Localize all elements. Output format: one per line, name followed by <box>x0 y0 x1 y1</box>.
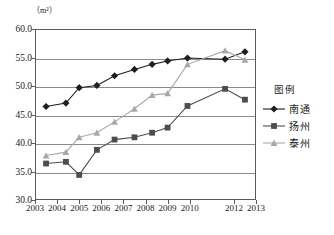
data-point-marker <box>165 125 171 131</box>
data-point-marker <box>111 72 118 79</box>
data-point-marker <box>241 48 248 55</box>
legend-label: 南通 <box>289 101 311 116</box>
series-line <box>46 89 245 175</box>
legend-label: 扬州 <box>289 118 311 133</box>
data-point-marker <box>63 159 69 165</box>
y-tick-label: 40.0 <box>15 138 32 148</box>
data-point-marker <box>242 97 248 103</box>
y-axis-tick <box>31 143 35 144</box>
data-point-marker <box>112 137 118 143</box>
y-tick-label: 55.0 <box>15 53 32 63</box>
x-tick-label: 2006 <box>92 203 110 213</box>
data-point-marker <box>93 129 100 135</box>
y-axis-tick-labels: 60.055.050.045.040.035.030.0 <box>0 0 35 235</box>
data-point-marker <box>184 61 191 67</box>
data-point-marker <box>132 134 138 140</box>
data-point-marker <box>131 66 138 73</box>
y-axis-tick <box>31 172 35 173</box>
x-tick-label: 2007 <box>114 203 132 213</box>
y-axis-unit-label: （m²） <box>32 4 57 15</box>
data-point-marker <box>43 161 49 167</box>
x-axis-tick-labels: 2003200420052006200720082009201020122013 <box>0 203 334 219</box>
data-point-marker <box>93 82 100 89</box>
x-tick-label: 2010 <box>181 203 199 213</box>
y-axis-tick <box>31 86 35 87</box>
series-triangle <box>43 47 249 158</box>
x-tick-label: 2008 <box>137 203 155 213</box>
x-tick-label: 2009 <box>159 203 177 213</box>
x-tick-label: 2012 <box>225 203 243 213</box>
legend-title: 图例 <box>274 82 334 96</box>
data-point-marker <box>184 54 191 61</box>
data-point-marker <box>185 103 191 109</box>
legend-swatch-icon <box>262 120 286 132</box>
y-axis-tick <box>31 29 35 30</box>
data-point-marker <box>270 105 277 112</box>
data-point-marker <box>222 86 228 92</box>
legend-item-triangle[interactable]: 泰州 <box>262 134 334 151</box>
data-point-marker <box>149 61 156 68</box>
data-point-marker <box>271 123 277 129</box>
series-line <box>46 52 245 107</box>
y-axis-tick <box>31 115 35 116</box>
data-point-marker <box>111 119 118 125</box>
chart-root: （m²） 60.055.050.045.040.035.030.0 200320… <box>0 0 334 235</box>
legend-item-diamond[interactable]: 南通 <box>262 100 334 117</box>
data-point-marker <box>222 47 229 53</box>
legend-swatch-icon <box>262 103 286 115</box>
data-point-marker <box>94 147 100 153</box>
legend-label: 泰州 <box>289 135 311 150</box>
y-axis-tick <box>31 58 35 59</box>
legend: 图例 南通扬州泰州 <box>262 82 334 151</box>
x-tick-label: 2013 <box>247 203 265 213</box>
data-point-marker <box>76 172 82 178</box>
data-point-marker <box>42 103 49 110</box>
y-tick-label: 60.0 <box>15 24 32 34</box>
x-tick-label: 2004 <box>48 203 66 213</box>
legend-swatch-icon <box>262 137 286 149</box>
x-tick-label: 2005 <box>70 203 88 213</box>
y-tick-label: 50.0 <box>15 81 32 91</box>
legend-entries: 南通扬州泰州 <box>262 100 334 151</box>
data-point-marker <box>149 130 155 136</box>
y-tick-label: 35.0 <box>15 167 32 177</box>
y-tick-label: 45.0 <box>15 110 32 120</box>
data-point-marker <box>242 56 249 62</box>
data-point-marker <box>164 57 171 64</box>
legend-item-square[interactable]: 扬州 <box>262 117 334 134</box>
x-tick-label: 2003 <box>26 203 44 213</box>
data-point-marker <box>221 56 228 63</box>
data-series-layer <box>35 29 256 200</box>
